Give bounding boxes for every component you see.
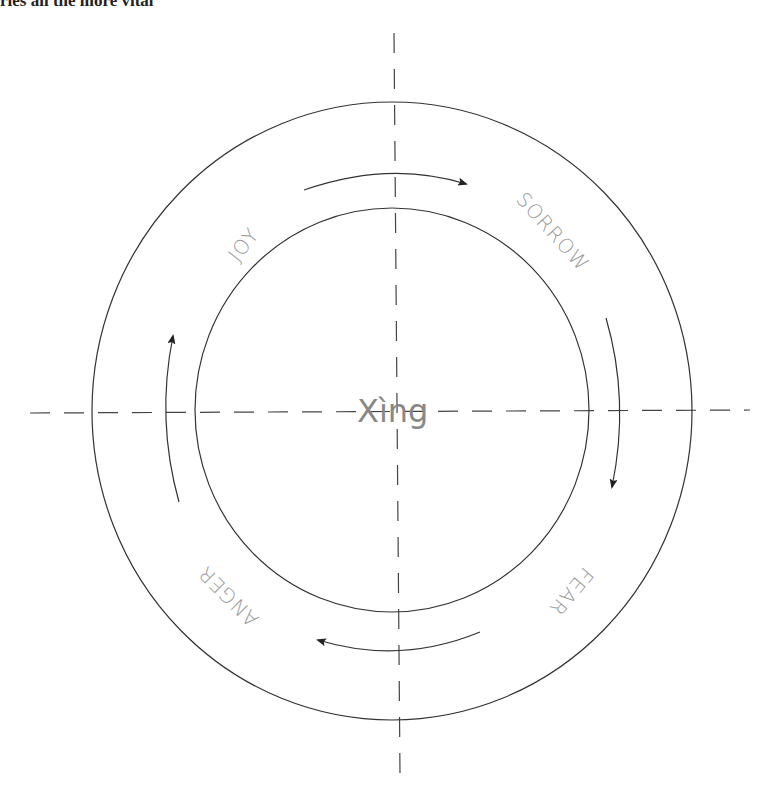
center-label-xing: Xìng [357,392,428,430]
label-sorrow: SORROW [511,187,594,276]
arrow-joy-to-sorrow [304,173,466,190]
arrow-anger-to-joy [166,336,179,502]
label-fear: FEAR [544,563,598,621]
label-anger: ANGER [193,561,263,631]
xing-cycle-diagram: JOY SORROW FEAR ANGER Xìng [0,0,768,794]
label-joy: JOY [223,223,264,266]
arrow-sorrow-to-fear [606,318,620,487]
